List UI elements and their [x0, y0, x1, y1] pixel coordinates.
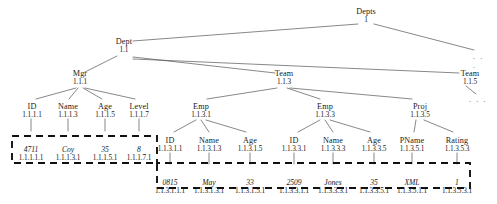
tree-node-p_rating: Rating1.1.3.5.3: [445, 137, 470, 153]
text-node-dewey-id: 1.1.1.3.1: [56, 154, 81, 161]
tree-node-emp2: Emp1.1.3.3: [315, 103, 334, 119]
text-node-v_e2_id: 25091.1.3.3.1.1: [279, 179, 309, 194]
tree-node-dept: Dept1.1: [116, 38, 132, 54]
node-dewey-id: 1.1.3.5.3: [445, 145, 470, 152]
text-node-dewey-id: 1.1.1.5.1: [93, 154, 118, 161]
node-dewey-id: 1.1.3.5: [410, 111, 429, 118]
tree-node-team1: Team1.1.3: [275, 70, 293, 86]
text-node-v_mgr_age: 351.1.1.5.1: [93, 146, 118, 161]
node-dewey-id: 1.1.3.3.1: [282, 145, 307, 152]
text-node-dewey-id: 1.1.3.5.3.1: [442, 187, 472, 194]
text-node-v_e1_id: 08151.1.3.1.1.1: [155, 179, 185, 194]
node-dewey-id: 1.1.3.5.1: [400, 145, 425, 152]
tree-node-e2_name: Name1.1.3.3.3: [321, 137, 346, 153]
ellipsis-dots_root: . . .: [473, 52, 489, 70]
text-node-v_e1_name: May1.1.3.1.3.1: [194, 179, 224, 194]
node-dewey-id: 1.1.3.1.3: [197, 145, 222, 152]
tree-node-e1_name: Name1.1.3.1.3: [197, 137, 222, 153]
node-dewey-id: 1.1.3.1: [191, 111, 210, 118]
node-dewey-id: 1: [356, 16, 376, 23]
text-node-dewey-id: 1.1.3.3.1.1: [279, 187, 309, 194]
tree-node-mgr_id: ID1.1.1.1: [22, 103, 41, 119]
text-node-v_mgr_name: Coy1.1.1.3.1: [56, 146, 81, 161]
text-node-dewey-id: 1.1.3.1.3.1: [194, 187, 224, 194]
node-dewey-id: 1.1.3.1.1: [158, 145, 183, 152]
tree-node-proj: Proj1.1.3.5: [410, 103, 429, 119]
node-dewey-id: 1.1.1.1: [22, 111, 41, 118]
tree-node-team2: Team1.1.5: [461, 70, 479, 86]
tree-node-mgr: Mgr1.1.1: [73, 70, 87, 86]
tree-node-emp1: Emp1.1.3.1: [191, 103, 210, 119]
node-dewey-id: 1.1.1.3: [58, 111, 78, 118]
node-dewey-id: 1.1.3.1.5: [238, 145, 263, 152]
text-node-dewey-id: 1.1.1.7.1: [127, 154, 152, 161]
text-node-v_e2_age: 351.1.3.3.5.1: [359, 179, 389, 194]
text-node-dewey-id: 1.1.3.3.3.1: [318, 187, 348, 194]
node-dewey-id: 1.1.3: [275, 78, 293, 85]
node-dewey-id: 1.1.3.3.5: [362, 145, 387, 152]
text-node-dewey-id: 1.1.3.3.5.1: [359, 187, 389, 194]
tree-node-mgr_name: Name1.1.1.3: [58, 103, 78, 119]
text-node-v_p_pname: XML1.1.3.5.1.1: [397, 179, 427, 194]
node-dewey-id: 1.1.5: [461, 78, 479, 85]
tree-node-e1_age: Age1.1.3.1.5: [238, 137, 263, 153]
text-node-dewey-id: 1.1.3.5.1.1: [397, 187, 427, 194]
text-node-v_mgr_level: 81.1.1.7.1: [127, 146, 152, 161]
tree-node-e1_id: ID1.1.3.1.1: [158, 137, 183, 153]
ellipsis-dots_team2: . . .: [469, 95, 487, 104]
tree-node-mgr_level: Level1.1.1.7: [129, 103, 148, 119]
node-dewey-id: 1.1.3.3: [315, 111, 334, 118]
text-node-v_e1_age: 331.1.3.1.5.1: [235, 179, 265, 194]
node-dewey-id: 1.1: [116, 46, 132, 53]
node-dewey-id: 1.1.1: [73, 78, 87, 85]
tree-node-mgr_age: Age1.1.1.5: [95, 103, 114, 119]
tree-node-depts: Depts1: [356, 8, 376, 24]
text-node-dewey-id: 1.1.3.1.5.1: [235, 187, 265, 194]
tree-node-p_pname: PName1.1.3.5.1: [400, 137, 425, 153]
text-node-v_e2_name: Jones1.1.3.3.3.1: [318, 179, 348, 194]
text-node-v_mgr_id: 47111.1.1.1.1: [19, 146, 44, 161]
text-node-v_p_rating: 11.1.3.5.3.1: [442, 179, 472, 194]
tree-node-e2_age: Age1.1.3.3.5: [362, 137, 387, 153]
tree-node-e2_id: ID1.1.3.3.1: [282, 137, 307, 153]
text-node-dewey-id: 1.1.1.1.1: [19, 154, 44, 161]
text-node-dewey-id: 1.1.3.1.1.1: [155, 187, 185, 194]
xml-tree-figure: Depts1Dept1.1Mgr1.1.1Team1.1.3Team1.1.5I…: [0, 0, 497, 204]
node-dewey-id: 1.1.3.3.3: [321, 145, 346, 152]
node-dewey-id: 1.1.1.5: [95, 111, 114, 118]
node-dewey-id: 1.1.1.7: [129, 111, 148, 118]
